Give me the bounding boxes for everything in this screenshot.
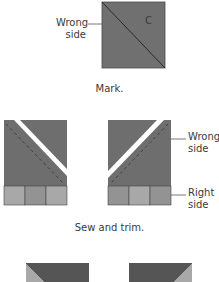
right-side-label-line2: side	[188, 199, 214, 211]
wrong-side-label-line1: Wrong	[56, 17, 86, 29]
wrong-side-label-step1: Wrong side	[56, 17, 86, 41]
bottom-left-block	[26, 263, 89, 282]
wrong-side-label-line2: side	[188, 143, 219, 155]
right-side-label-line1: Right	[188, 187, 214, 199]
right-sewn-block	[108, 120, 171, 205]
right-side-label: Right side	[188, 187, 214, 211]
wrong-side-label-line1: Wrong	[188, 131, 219, 143]
caption-sew-and-trim: Sew and trim.	[0, 222, 219, 234]
bottom-right-block	[129, 263, 192, 282]
caption-mark: Mark.	[0, 83, 219, 95]
left-sewn-block	[4, 120, 67, 205]
wrong-side-label-line2: side	[56, 29, 86, 41]
wrong-side-label-step2: Wrong side	[188, 131, 219, 155]
diagram-canvas	[0, 0, 219, 282]
square-letter-c: C	[145, 15, 152, 27]
square-c-marked	[102, 2, 165, 68]
